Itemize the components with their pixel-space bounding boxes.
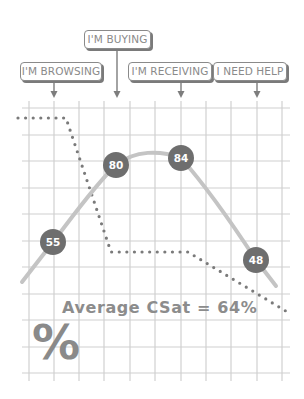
arrow-down-icon bbox=[51, 91, 58, 98]
average-csat-annotation: Average CSat = 64% bbox=[62, 298, 252, 317]
csat-marker: 80 bbox=[103, 152, 129, 178]
stage-label-need-help: I NEED HELP bbox=[213, 62, 287, 81]
csat-marker: 55 bbox=[40, 229, 66, 255]
marker-value: 55 bbox=[46, 236, 61, 248]
percent-symbol: % bbox=[32, 316, 80, 368]
marker-value: 84 bbox=[174, 152, 189, 164]
arrow-down-icon bbox=[254, 91, 261, 98]
stage-label-buying: I'M BUYING bbox=[84, 30, 151, 49]
arrow-down-icon bbox=[178, 91, 185, 98]
csat-journey-chart: 55808448 I'M BROWSING I'M BUYING I'M REC… bbox=[0, 0, 304, 399]
stage-label-browsing: I'M BROWSING bbox=[20, 62, 102, 81]
stage-label-receiving: I'M RECEIVING bbox=[128, 62, 212, 81]
marker-value: 48 bbox=[249, 254, 264, 266]
csat-curve bbox=[22, 153, 276, 286]
csat-marker: 84 bbox=[168, 145, 194, 171]
marker-value: 80 bbox=[109, 159, 124, 171]
csat-marker: 48 bbox=[243, 247, 269, 273]
arrow-down-icon bbox=[114, 91, 121, 98]
dotted-trend-line bbox=[18, 118, 289, 313]
